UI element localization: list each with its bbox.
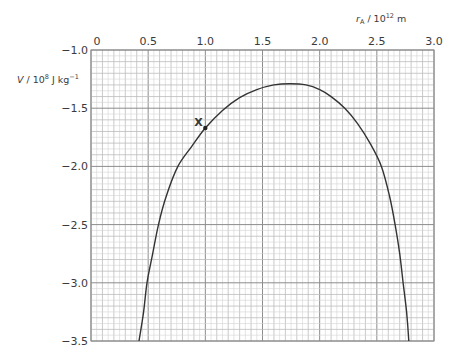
x-tick-label: 2.0 <box>311 35 329 48</box>
x-tick-label: 3.0 <box>425 35 443 48</box>
x-tick-label: 2.5 <box>368 35 386 48</box>
grid <box>91 50 434 341</box>
y-tick-label: −2.5 <box>61 219 88 232</box>
x-tick-label: 1.0 <box>197 35 215 48</box>
y-tick-label: −3.5 <box>61 335 88 348</box>
x-axis-label: rA / 1012 m <box>356 12 406 26</box>
x-tick-label: 0 <box>94 35 101 48</box>
potential-chart: 00.51.01.52.02.53.0 −1.0−1.5−2.0−2.5−3.0… <box>0 0 461 357</box>
point-x-label: X <box>194 116 203 129</box>
x-tick-label: 1.5 <box>254 35 272 48</box>
y-tick-label: −1.0 <box>61 44 88 57</box>
y-tick-labels: −1.0−1.5−2.0−2.5−3.0−3.5 <box>61 44 88 348</box>
y-tick-label: −2.0 <box>61 160 88 173</box>
point-x-marker <box>203 126 207 130</box>
y-axis-label: V / 108 J kg−1 <box>17 73 79 85</box>
y-tick-label: −1.5 <box>61 102 88 115</box>
y-tick-label: −3.0 <box>61 277 88 290</box>
x-tick-label: 0.5 <box>139 35 157 48</box>
x-tick-labels: 00.51.01.52.02.53.0 <box>94 35 443 48</box>
